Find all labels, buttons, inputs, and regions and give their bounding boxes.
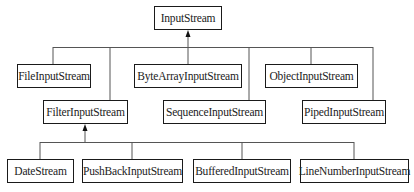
inheritance-arrow-icon	[83, 124, 88, 131]
node-datestream: DateStream	[7, 159, 74, 183]
node-bytearrayinputstream: ByteArrayInputStream	[134, 64, 242, 88]
node-pushbackinputstream: PushBackInputStream	[82, 159, 183, 183]
node-objectinputstream: ObjectInputStream	[265, 64, 358, 88]
node-linenumberinputstream: LineNumberInputStream	[300, 159, 409, 183]
inheritance-arrow-icon	[186, 30, 191, 37]
node-sequenceinputstream: SequenceInputStream	[163, 100, 266, 124]
node-inputstream: InputStream	[154, 6, 222, 30]
node-filterinputstream: FilterInputStream	[43, 100, 128, 124]
node-fileinputstream: FileInputStream	[17, 64, 91, 88]
node-pipedinputstream: PipedInputStream	[302, 100, 386, 124]
node-bufferedinputstream: BufferedInputStream	[193, 159, 291, 183]
